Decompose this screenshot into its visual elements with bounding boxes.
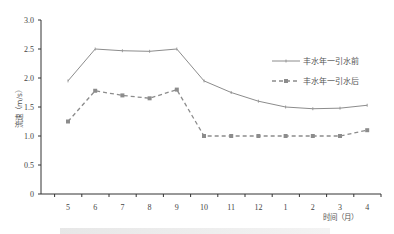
y-tick-label: 0.5 bbox=[24, 161, 34, 170]
y-tick-label: 0 bbox=[30, 190, 34, 199]
y-tick-label: 2.5 bbox=[24, 45, 34, 54]
x-tick-label: 8 bbox=[148, 203, 152, 212]
x-axis-title: 时间（月） bbox=[323, 212, 358, 222]
x-tick-label: 4 bbox=[365, 203, 369, 212]
figure-caption-cropped bbox=[60, 228, 330, 234]
data-point-marker bbox=[202, 134, 206, 138]
data-point-marker bbox=[284, 134, 288, 138]
data-point-marker bbox=[148, 96, 152, 100]
line-chart: 00.51.01.52.02.53.0 567891011121234 流速（m… bbox=[0, 0, 394, 234]
legend-item-after: 丰水年一引水后 bbox=[272, 76, 359, 86]
legend-label: 丰水年一引水前 bbox=[303, 56, 359, 66]
legend: 丰水年一引水前 丰水年一引水后 bbox=[272, 56, 359, 86]
x-tick-label: 9 bbox=[175, 203, 179, 212]
y-tick-label: 1.0 bbox=[24, 132, 34, 141]
y-axis-title: 流速（m/s） bbox=[14, 86, 24, 128]
y-tick-label: 2.0 bbox=[24, 74, 34, 83]
data-point-marker bbox=[66, 120, 70, 124]
y-axis: 00.51.01.52.02.53.0 bbox=[24, 16, 41, 199]
data-point-marker bbox=[229, 134, 233, 138]
legend-square-marker-icon bbox=[284, 79, 288, 83]
x-tick-label: 6 bbox=[93, 203, 97, 212]
legend-item-before: 丰水年一引水前 bbox=[272, 56, 359, 66]
series-line-after bbox=[68, 90, 367, 136]
x-tick-label: 12 bbox=[254, 203, 262, 212]
x-tick-label: 7 bbox=[120, 203, 124, 212]
data-point-marker bbox=[256, 134, 260, 138]
data-point-marker bbox=[338, 134, 342, 138]
x-axis: 567891011121234 bbox=[41, 194, 381, 212]
legend-label: 丰水年一引水后 bbox=[303, 76, 359, 86]
x-tick-label: 10 bbox=[200, 203, 208, 212]
data-point-marker bbox=[311, 134, 315, 138]
y-tick-label: 1.5 bbox=[24, 103, 34, 112]
x-tick-label: 11 bbox=[227, 203, 235, 212]
x-tick-label: 1 bbox=[284, 203, 288, 212]
data-point-marker bbox=[120, 93, 124, 97]
data-point-marker bbox=[175, 88, 179, 92]
x-tick-label: 5 bbox=[66, 203, 70, 212]
data-point-marker bbox=[93, 89, 97, 93]
y-tick-label: 3.0 bbox=[24, 16, 34, 25]
x-tick-label: 3 bbox=[338, 203, 342, 212]
data-point-marker bbox=[365, 128, 369, 132]
x-tick-label: 2 bbox=[311, 203, 315, 212]
